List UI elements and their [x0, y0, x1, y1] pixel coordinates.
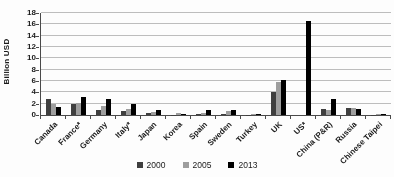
plot-area	[40, 13, 391, 116]
bar	[356, 109, 361, 115]
bar	[231, 110, 236, 115]
legend-item-2005: 2005	[183, 160, 212, 170]
bar-group	[341, 13, 366, 115]
bar-group	[216, 13, 241, 115]
bar	[181, 114, 186, 115]
x-tick	[140, 116, 141, 119]
bar	[106, 99, 111, 115]
bar-group	[166, 13, 191, 115]
bar-group	[266, 13, 291, 115]
y-tick	[36, 92, 39, 93]
x-tick	[340, 116, 341, 119]
bar	[306, 21, 311, 115]
legend-label: 2013	[238, 160, 257, 170]
x-tick	[165, 116, 166, 119]
y-tick	[36, 13, 39, 14]
y-tick	[36, 104, 39, 105]
y-tick-label: 6	[10, 77, 36, 85]
bar-group	[316, 13, 341, 115]
y-tick	[36, 115, 39, 116]
bar-group	[91, 13, 116, 115]
y-tick-label: 16	[10, 20, 36, 28]
x-label: Japan	[136, 120, 159, 143]
y-tick	[36, 47, 39, 48]
legend-swatch	[137, 162, 143, 168]
x-label: Turkey	[234, 120, 258, 144]
x-tick	[290, 116, 291, 119]
x-label: Korea	[161, 120, 183, 142]
legend-item-2013: 2013	[228, 160, 257, 170]
x-tick	[190, 116, 191, 119]
x-label: Spain	[187, 120, 209, 142]
x-tick	[90, 116, 91, 119]
x-tick	[115, 116, 116, 119]
x-tick	[215, 116, 216, 119]
y-tick-label: 0	[10, 111, 36, 119]
y-tick-label: 10	[10, 54, 36, 62]
y-tick-label: 18	[10, 9, 36, 17]
bar-group	[66, 13, 91, 115]
y-tick	[36, 70, 39, 71]
bar	[331, 99, 336, 115]
x-tick	[265, 116, 266, 119]
bar	[81, 97, 86, 115]
y-tick	[36, 24, 39, 25]
x-label: Canada	[32, 120, 59, 147]
x-tick	[65, 116, 66, 119]
bar	[56, 107, 61, 115]
y-tick-label: 14	[10, 32, 36, 40]
bar-group	[366, 13, 391, 115]
bar-group	[241, 13, 266, 115]
x-label: US*	[292, 120, 308, 136]
y-tick	[36, 58, 39, 59]
bar-group	[291, 13, 316, 115]
x-label: Sweden	[206, 120, 234, 148]
y-tick	[36, 81, 39, 82]
legend: 200020052013	[0, 160, 394, 170]
x-label: UK	[269, 120, 284, 135]
bar	[131, 104, 136, 115]
y-tick-label: 12	[10, 43, 36, 51]
x-label: Italy*	[114, 120, 134, 140]
legend-swatch	[183, 162, 189, 168]
bar-chart: Billion USD CanadaFrance*GermanyItaly*Ja…	[0, 0, 394, 177]
y-tick-label: 2	[10, 100, 36, 108]
x-tick	[365, 116, 366, 119]
y-tick-label: 8	[10, 66, 36, 74]
legend-label: 2000	[147, 160, 166, 170]
bar-group	[41, 13, 66, 115]
x-tick	[240, 116, 241, 119]
x-tick	[315, 116, 316, 119]
x-tick	[40, 116, 41, 119]
bar	[381, 114, 386, 115]
bar-group	[141, 13, 166, 115]
bar	[281, 80, 286, 115]
y-tick	[36, 36, 39, 37]
x-tick	[390, 116, 391, 119]
bar	[156, 110, 161, 115]
y-tick-label: 4	[10, 88, 36, 96]
bar-group	[191, 13, 216, 115]
legend-swatch	[228, 162, 234, 168]
legend-item-2000: 2000	[137, 160, 166, 170]
bar-group	[116, 13, 141, 115]
legend-label: 2005	[193, 160, 212, 170]
bar	[256, 114, 261, 115]
bar	[206, 110, 211, 115]
